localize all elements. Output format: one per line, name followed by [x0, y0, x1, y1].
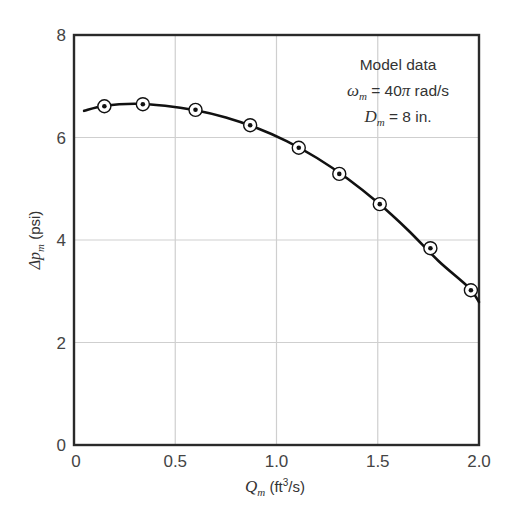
x-tick-label: 1.5 — [366, 452, 390, 471]
annotation-title: Model data — [360, 56, 437, 73]
data-point — [292, 141, 305, 154]
y-tick-label: 6 — [57, 129, 66, 148]
x-tick-label: 1.0 — [265, 452, 289, 471]
x-tick-label: 0 — [71, 452, 80, 471]
annotation-box: Model data ωm = 40π rad/s Dm = 8 in. — [347, 56, 449, 128]
pump-performance-chart: 00.51.01.52.0 02468 Model data ωm = 40π … — [0, 0, 511, 507]
data-point — [136, 98, 149, 111]
y-tick-label: 8 — [57, 26, 66, 45]
fitted-curve — [84, 104, 479, 302]
data-point — [373, 198, 386, 211]
data-point — [98, 100, 111, 113]
annotation-diameter: Dm = 8 in. — [363, 107, 431, 128]
y-tick-label: 2 — [57, 334, 66, 353]
y-tick-label: 4 — [57, 231, 66, 250]
data-point — [244, 119, 257, 132]
x-axis-label: Qm (ft3/s) — [245, 477, 305, 498]
annotation-omega: ωm = 40π rad/s — [347, 81, 449, 102]
x-tick-label: 2.0 — [467, 452, 491, 471]
data-point — [333, 167, 346, 180]
y-axis-ticks: 02468 — [57, 26, 66, 455]
data-point — [464, 284, 477, 297]
x-axis-ticks: 00.51.01.52.0 — [71, 452, 491, 471]
data-points — [98, 98, 478, 297]
data-point — [424, 242, 437, 255]
y-axis-label: Δpm (psi) — [26, 211, 46, 271]
y-tick-label: 0 — [57, 436, 66, 455]
x-tick-label: 0.5 — [163, 452, 187, 471]
data-point — [189, 103, 202, 116]
